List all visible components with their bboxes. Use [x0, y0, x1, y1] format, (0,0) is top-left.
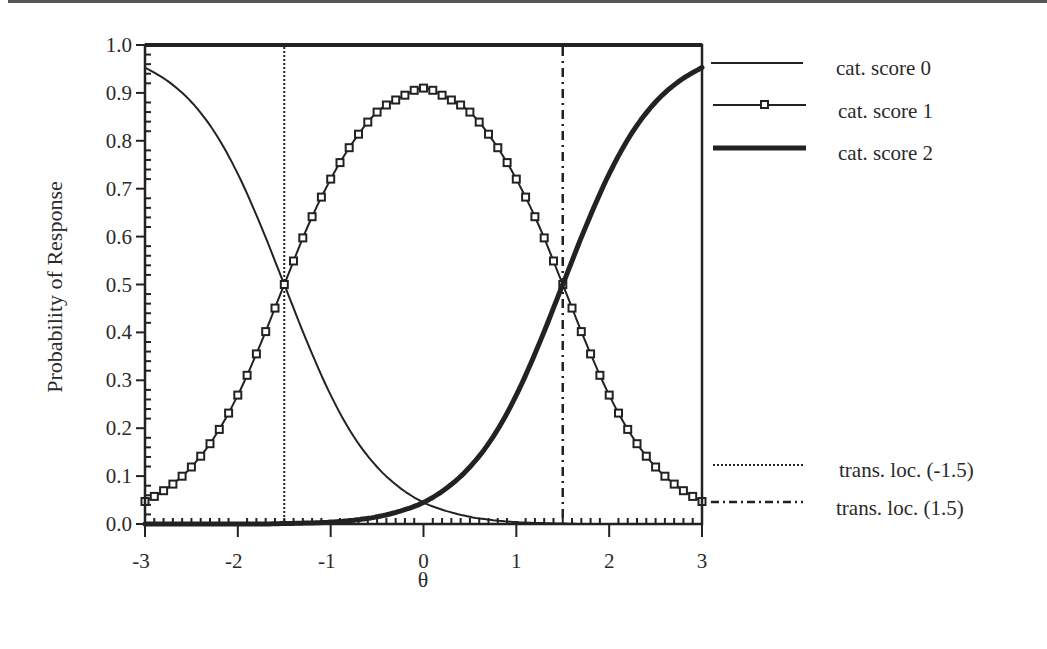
square-marker-icon	[606, 392, 613, 399]
square-marker-icon	[383, 102, 390, 109]
square-marker-icon	[596, 372, 603, 379]
y-tick-label: 0.3	[106, 368, 132, 392]
square-marker-icon	[513, 176, 520, 183]
square-marker-icon	[615, 410, 622, 417]
x-tick-label: 1	[511, 549, 522, 573]
legend-item-cat-score-2: cat. score 2	[713, 141, 933, 165]
square-marker-icon	[290, 258, 297, 265]
y-tick-label: 1.0	[106, 33, 132, 57]
square-marker-icon	[234, 392, 241, 399]
square-marker-icon	[531, 213, 538, 220]
plot-frame	[145, 45, 702, 524]
square-marker-icon	[587, 350, 594, 357]
square-marker-icon	[466, 109, 473, 116]
legend-label: cat. score 2	[838, 141, 933, 165]
legend-item-cat-score-1: cat. score 1	[713, 99, 933, 123]
y-tick-label: 0.4	[106, 320, 133, 344]
square-marker-icon	[244, 372, 251, 379]
square-marker-icon	[448, 97, 455, 104]
square-marker-icon	[624, 426, 631, 433]
square-marker-icon	[197, 453, 204, 460]
square-marker-icon	[281, 281, 288, 288]
y-axis-title: Probability of Response	[42, 181, 67, 392]
square-marker-icon	[364, 119, 371, 126]
square-marker-icon	[550, 258, 557, 265]
square-marker-icon	[661, 473, 668, 480]
legend-label: trans. loc. (1.5)	[836, 496, 964, 520]
x-axis-title: θ	[418, 567, 429, 592]
square-marker-icon	[680, 487, 687, 494]
series-line-2	[145, 68, 702, 525]
square-marker-icon	[476, 119, 483, 126]
x-tick-label: -2	[225, 549, 243, 573]
square-marker-icon	[327, 176, 334, 183]
square-marker-icon	[569, 305, 576, 312]
square-marker-icon	[494, 144, 501, 151]
y-tick-label: 0.2	[106, 416, 132, 440]
y-tick-label: 0.1	[106, 464, 132, 488]
square-marker-icon	[346, 144, 353, 151]
square-marker-icon	[337, 159, 344, 166]
square-marker-icon	[225, 410, 232, 417]
item-category-response-chart: 0.00.10.20.30.40.50.60.70.80.91.0 -3-2-1…	[0, 0, 1047, 649]
square-marker-icon	[401, 92, 408, 99]
square-marker-icon	[272, 305, 279, 312]
square-marker-icon	[253, 350, 260, 357]
square-marker-icon	[169, 481, 176, 488]
square-marker-icon	[420, 85, 427, 92]
square-marker-icon	[689, 493, 696, 500]
y-tick-label: 0.7	[106, 177, 132, 201]
square-marker-icon	[411, 87, 418, 94]
square-marker-icon	[179, 473, 186, 480]
x-tick-label: 2	[604, 549, 615, 573]
legend-item-trans-loc-pos: trans. loc. (1.5)	[711, 496, 964, 520]
square-marker-icon	[262, 328, 269, 335]
square-marker-icon	[671, 481, 678, 488]
series-line-1	[145, 88, 702, 501]
x-tick-label: 3	[697, 549, 708, 573]
square-marker-icon	[652, 464, 659, 471]
square-marker-icon	[522, 194, 529, 201]
square-marker-icon	[457, 102, 464, 109]
square-marker-icon	[151, 493, 158, 500]
square-marker-icon	[504, 159, 511, 166]
square-marker-icon	[761, 101, 768, 108]
plot-area	[142, 45, 706, 524]
series-line-0	[145, 68, 702, 525]
square-marker-icon	[634, 440, 641, 447]
y-tick-label: 0.0	[106, 512, 132, 536]
square-marker-icon	[188, 464, 195, 471]
square-marker-icon	[439, 92, 446, 99]
y-tick-label: 0.9	[106, 81, 132, 105]
x-tick-label: -3	[132, 549, 150, 573]
y-tick-label: 0.8	[106, 129, 132, 153]
square-marker-icon	[485, 131, 492, 138]
square-marker-icon	[578, 328, 585, 335]
square-marker-icon	[643, 453, 650, 460]
x-tick-label: -1	[318, 549, 336, 573]
square-marker-icon	[355, 131, 362, 138]
square-marker-icon	[160, 487, 167, 494]
y-tick-label: 0.6	[106, 225, 132, 249]
legend-item-trans-loc-neg: trans. loc. (-1.5)	[713, 458, 974, 482]
square-marker-icon	[216, 426, 223, 433]
square-marker-icon	[374, 109, 381, 116]
square-marker-icon	[207, 440, 214, 447]
legend: cat. score 0 cat. score 1 cat. score 2 t…	[711, 56, 974, 520]
legend-label: trans. loc. (-1.5)	[839, 458, 974, 482]
square-marker-icon	[299, 234, 306, 241]
legend-label: cat. score 1	[838, 99, 933, 123]
square-marker-icon	[429, 87, 436, 94]
square-marker-icon	[318, 194, 325, 201]
y-tick-label: 0.5	[106, 273, 132, 297]
legend-label: cat. score 0	[836, 56, 931, 80]
square-marker-icon	[541, 234, 548, 241]
legend-item-cat-score-0: cat. score 0	[711, 56, 931, 80]
square-marker-icon	[309, 213, 316, 220]
square-marker-icon	[392, 97, 399, 104]
